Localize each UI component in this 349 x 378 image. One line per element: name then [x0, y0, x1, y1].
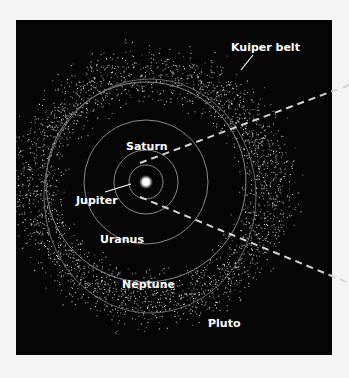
jupiter-label: Jupiter [75, 194, 118, 207]
saturn-label: Saturn [126, 140, 168, 153]
pluto-label: Pluto [208, 317, 241, 330]
kuiper-belt-diagram: Kuiper belt Saturn Jupiter Uranus Neptun… [0, 0, 349, 378]
sun-core [143, 179, 150, 186]
neptune-label: Neptune [122, 278, 175, 291]
uranus-label: Uranus [100, 233, 144, 246]
kuiper-belt-label: Kuiper belt [231, 41, 300, 54]
